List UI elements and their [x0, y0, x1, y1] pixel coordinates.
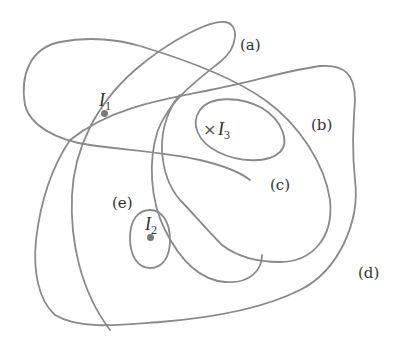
point-I3-cross-icon: × [203, 122, 216, 138]
point-I2-dot [147, 234, 154, 241]
curve-label-b: (b) [311, 118, 332, 133]
curve-d [35, 66, 356, 326]
curve-b-left [25, 105, 250, 180]
curve-label-e: (e) [112, 196, 133, 211]
curve-label-d: (d) [358, 266, 379, 281]
curve-label-c: (c) [270, 178, 290, 193]
point-I1-dot [101, 110, 108, 117]
point-label-I3: I3 [218, 120, 230, 141]
curve-label-a: (a) [240, 38, 261, 53]
diagram-canvas [0, 0, 399, 343]
point-label-I2: I2 [145, 215, 157, 236]
point-label-I1: I1 [99, 91, 111, 112]
